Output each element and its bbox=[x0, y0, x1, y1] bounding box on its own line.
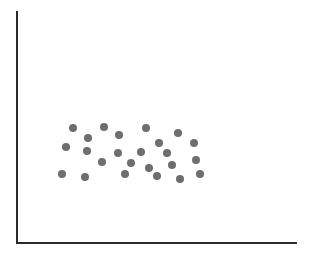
data-point bbox=[163, 149, 171, 157]
data-point bbox=[190, 139, 198, 147]
scatter-plot-figure bbox=[0, 0, 322, 256]
data-point bbox=[142, 124, 150, 132]
data-point bbox=[137, 148, 145, 156]
data-point bbox=[84, 134, 92, 142]
plot-background bbox=[0, 0, 322, 256]
data-point bbox=[168, 161, 176, 169]
data-point bbox=[176, 175, 184, 183]
data-point bbox=[145, 164, 153, 172]
plot-canvas bbox=[0, 0, 322, 256]
data-point bbox=[100, 123, 108, 131]
data-point bbox=[174, 129, 182, 137]
data-point bbox=[155, 139, 163, 147]
data-point bbox=[114, 149, 122, 157]
data-point bbox=[192, 156, 200, 164]
data-point bbox=[153, 172, 161, 180]
data-point bbox=[115, 131, 123, 139]
data-point bbox=[62, 143, 70, 151]
data-point bbox=[127, 159, 135, 167]
data-point bbox=[58, 170, 66, 178]
data-point bbox=[121, 170, 129, 178]
data-point bbox=[69, 124, 77, 132]
data-point bbox=[196, 170, 204, 178]
data-point bbox=[83, 147, 91, 155]
data-point bbox=[81, 173, 89, 181]
data-point bbox=[98, 158, 106, 166]
